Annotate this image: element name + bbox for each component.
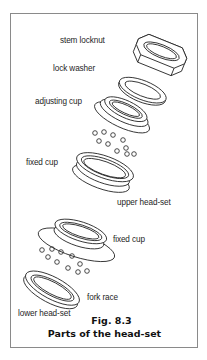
head-set-exploded-diagram bbox=[0, 0, 207, 360]
label-stem-locknut: stem locknut bbox=[60, 36, 105, 45]
lower-fixed-cup-part bbox=[35, 210, 122, 268]
label-upper-head-set: upper head-set bbox=[117, 198, 171, 207]
label-adjusting-cup: adjusting cup bbox=[35, 97, 82, 106]
label-fixed-cup-lower: fixed cup bbox=[113, 235, 145, 244]
label-lock-washer: lock washer bbox=[53, 64, 95, 73]
label-fork-race: fork race bbox=[87, 293, 118, 302]
figure-title: Parts of the head-set bbox=[1, 328, 207, 339]
upper-ball-bearings bbox=[93, 130, 137, 157]
label-fixed-cup-upper: fixed cup bbox=[26, 158, 58, 167]
fork-race-part bbox=[19, 264, 84, 315]
figure-number: Fig. 8.3 bbox=[8, 315, 207, 326]
upper-fixed-cup-part bbox=[69, 147, 137, 199]
stem-locknut-part bbox=[130, 31, 189, 78]
